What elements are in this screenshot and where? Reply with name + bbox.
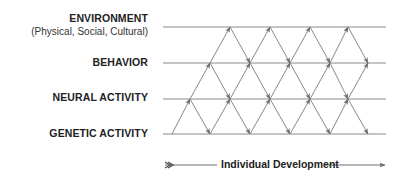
- downward-influence-arrows: [190, 27, 368, 134]
- individual-development-label: Individual Development: [221, 158, 339, 170]
- level-lines: [163, 27, 386, 134]
- bidirectional-influences-diagram: [0, 0, 400, 184]
